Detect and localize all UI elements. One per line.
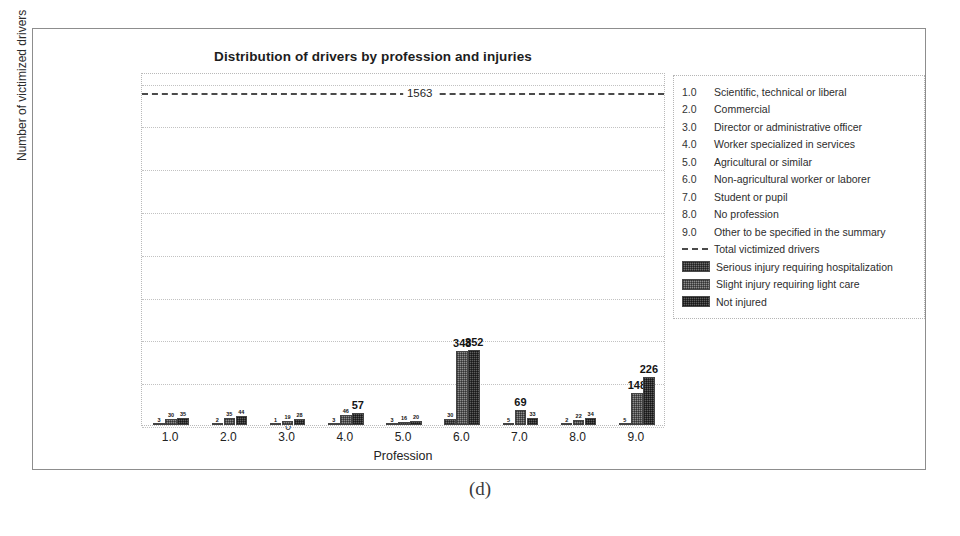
figure-caption: (d) [0,478,960,500]
bar-group: 5148226 [619,74,655,425]
x-tick-label: 9.0 [628,430,645,444]
legend-swatch-notinjured [682,296,710,307]
x-tick-label: 2.0 [220,430,237,444]
chart-legend: 1.0Scientific, technical or liberal2.0Co… [673,75,925,319]
bar-serious [444,419,456,425]
plot-area: 1563 33035235441192834657316203034835256… [141,73,665,426]
gridline [142,427,664,428]
bar-value-label: 69 [514,396,526,408]
bar-value-label: 46 [343,408,349,414]
legend-item-profession-6-0[interactable]: 6.0Non-agricultural worker or laborer [682,171,918,189]
bar-value-label: 3 [332,417,335,423]
bar-group: 34657 [328,74,364,425]
legend-series-label: Not injured [716,296,767,308]
bar-slight [456,351,468,425]
bar-group: 23544 [212,74,248,425]
bar-value-label: 20 [413,414,419,420]
legend-profession-label: Director or administrative officer [714,121,862,133]
bar-value-label: 33 [529,411,535,417]
bar-slight [165,419,177,425]
bar-value-label: 35 [226,411,232,417]
legend-item-profession-3-0[interactable]: 3.0Director or administrative officer [682,118,918,136]
legend-item-profession-7-0[interactable]: 7.0Student or pupil [682,188,918,206]
bar-serious [386,423,398,425]
legend-profession-label: Commercial [714,103,770,115]
legend-swatch-serious [682,261,710,272]
bar-value-label: 30 [447,412,453,418]
bar-serious [270,423,282,425]
legend-item-profession-4-0[interactable]: 4.0Worker specialized in services [682,136,918,154]
bar-value-label: 19 [284,414,290,420]
bar-value-label: 30 [168,412,174,418]
bar-notinjured [643,377,655,425]
legend-series-label: Serious injury requiring hospitalization [716,261,893,273]
bar-serious [212,423,224,425]
legend-profession-label: Scientific, technical or liberal [714,86,846,98]
legend-profession-code: 3.0 [682,121,714,133]
bar-notinjured [527,418,539,425]
legend-item-profession-1-0[interactable]: 1.0Scientific, technical or liberal [682,83,918,101]
legend-item-series[interactable]: Total victimized drivers [682,241,918,259]
legend-profession-label: Worker specialized in services [714,138,855,150]
bar-value-label: 28 [296,412,302,418]
bar-serious [619,423,631,425]
legend-profession-label: Agricultural or similar [714,156,812,168]
legend-profession-code: 1.0 [682,86,714,98]
bar-serious [153,423,165,425]
legend-profession-label: Non-agricultural worker or laborer [714,173,870,185]
bar-serious [328,423,340,425]
bar-value-label: 226 [640,363,658,375]
legend-item-series[interactable]: Serious injury requiring hospitalization [682,258,918,276]
bar-value-label: 44 [238,409,244,415]
legend-series-label: Slight injury requiring light care [716,278,860,290]
legend-profession-code: 9.0 [682,226,714,238]
bar-notinjured [352,413,364,425]
bar-slight [340,415,352,425]
legend-swatch-slight [682,279,710,290]
bar-value-label: 16 [401,415,407,421]
bar-slight [224,418,236,425]
legend-profession-code: 5.0 [682,156,714,168]
legend-profession-label: No profession [714,208,779,220]
bar-slight [573,420,585,425]
bar-group: 22234 [561,74,597,425]
bar-value-label: 22 [576,413,582,419]
bar-slight [631,393,643,425]
legend-profession-label: Other to be specified in the summary [714,226,886,238]
bar-notinjured [294,419,306,425]
x-tick-label: 1.0 [162,430,179,444]
legend-item-profession-9-0[interactable]: 9.0Other to be specified in the summary [682,223,918,241]
legend-dashed-line-marker [682,248,708,250]
legend-item-profession-2-0[interactable]: 2.0Commercial [682,101,918,119]
chart-canvas: Distribution of drivers by profession an… [33,29,927,471]
bar-group: 30348352 [444,74,480,425]
bar-group: 11928 [270,74,306,425]
bar-value-label: 1 [274,417,277,423]
legend-item-series[interactable]: Not injured [682,293,918,311]
legend-profession-code: 6.0 [682,173,714,185]
x-tick-label: 3.0 [278,430,295,444]
figure-frame: Distribution of drivers by profession an… [32,28,926,470]
x-tick-label: 8.0 [569,430,586,444]
legend-item-profession-8-0[interactable]: 8.0No profession [682,206,918,224]
bar-value-label: 2 [216,417,219,423]
bar-value-label: 57 [352,399,364,411]
bar-notinjured [468,350,480,425]
bar-notinjured [177,418,189,425]
legend-series-label: Total victimized drivers [714,243,820,255]
legend-item-series[interactable]: Slight injury requiring light care [682,276,918,294]
figure-page: Distribution of drivers by profession an… [0,0,960,536]
bar-notinjured [236,416,248,425]
legend-item-profession-5-0[interactable]: 5.0Agricultural or similar [682,153,918,171]
chart-title: Distribution of drivers by profession an… [93,49,653,64]
bar-notinjured [585,418,597,425]
bar-value-label: 34 [588,411,594,417]
legend-profession-code: 8.0 [682,208,714,220]
bar-slight [398,422,410,425]
bar-value-label: 5 [623,417,626,423]
bar-value-label: 35 [180,411,186,417]
bar-value-label: 2 [565,417,568,423]
legend-profession-code: 4.0 [682,138,714,150]
x-tick-label: 5.0 [395,430,412,444]
bar-slight [282,421,294,425]
